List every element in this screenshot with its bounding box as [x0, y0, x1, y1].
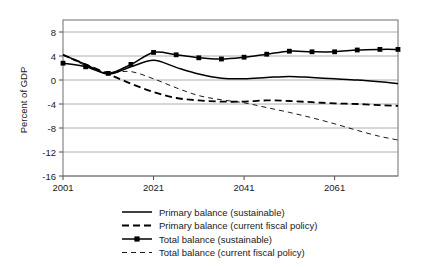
y-axis-title: Percent of GDP [18, 67, 29, 134]
legend-label: Primary balance (sustainable) [159, 207, 285, 218]
y-tick-label: -12 [42, 147, 56, 158]
series-marker [377, 47, 382, 52]
legend-label: Total balance (current fiscal policy) [159, 247, 305, 258]
x-tick-label: 2021 [143, 182, 164, 193]
legend-label: Total balance (sustainable) [159, 234, 272, 245]
series-marker [396, 47, 401, 52]
chart-figure: Percent of GDP 840-4-8-12-16 20012021204… [0, 0, 423, 267]
y-tick-label: -8 [48, 123, 56, 134]
series-marker [129, 62, 134, 67]
x-tick-label: 2061 [324, 182, 345, 193]
series-marker [61, 61, 66, 66]
series-marker [310, 49, 315, 54]
x-tick-label: 2001 [52, 182, 73, 193]
legend-marker [134, 236, 139, 241]
y-tick-label: -16 [42, 171, 56, 182]
series-marker [242, 55, 247, 60]
legend-label: Primary balance (current fiscal policy) [159, 220, 317, 231]
series-marker [287, 49, 292, 54]
y-tick-label: 8 [51, 27, 56, 38]
series-marker [264, 52, 269, 57]
series-marker [219, 57, 224, 62]
series-marker [174, 52, 179, 57]
y-tick-label: 4 [51, 51, 56, 62]
series-marker [196, 55, 201, 60]
x-tick-label: 2041 [234, 182, 255, 193]
series-marker [83, 64, 88, 69]
line-chart: Percent of GDP 840-4-8-12-16 20012021204… [0, 0, 423, 267]
series-marker [332, 49, 337, 54]
series-marker [151, 50, 156, 55]
y-tick-label: -4 [48, 99, 56, 110]
y-tick-label: 0 [51, 75, 56, 86]
series-marker [355, 48, 360, 53]
